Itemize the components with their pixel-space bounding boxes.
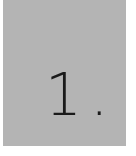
numbered-card: 1. bbox=[3, 0, 126, 146]
step-number-label: 1. bbox=[45, 66, 116, 124]
